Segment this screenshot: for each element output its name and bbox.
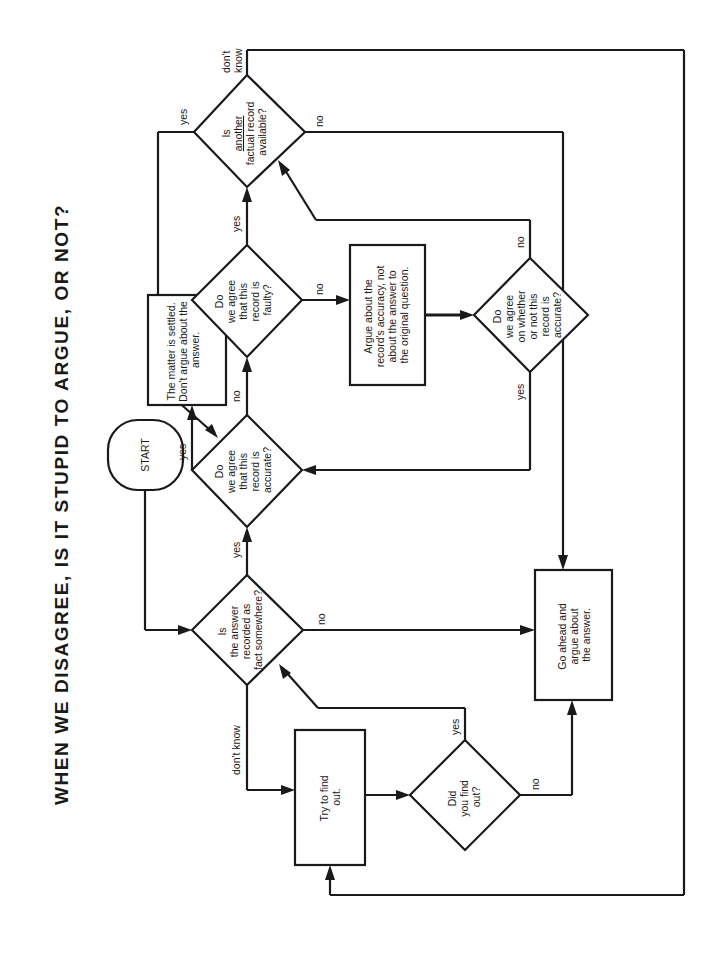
edge-recorded-yes xyxy=(242,527,252,575)
label-another-no: no xyxy=(313,115,325,127)
edge-whether-no xyxy=(278,160,530,258)
label-found-no: no xyxy=(529,778,541,790)
label-accurate-yes: yes xyxy=(176,444,188,460)
edge-faulty-no xyxy=(302,295,350,305)
edge-whether-yes xyxy=(302,372,530,475)
start-label: START xyxy=(139,438,151,472)
edge-start-to-recorded xyxy=(145,490,192,635)
flowchart: WHEN WE DISAGREE, IS IT STUPID TO ARGUE,… xyxy=(0,0,720,964)
label-recorded-yes: yes xyxy=(230,542,242,558)
edge-recorded-dontknow xyxy=(247,685,295,795)
label-recorded-dontknow: don't know xyxy=(230,725,242,775)
label-whether-yes: yes xyxy=(514,384,526,400)
label-another-yes: yes xyxy=(177,109,189,125)
label-faulty-no: no xyxy=(313,283,325,295)
label-recorded-no: no xyxy=(315,613,327,625)
edge-argue-to-whether xyxy=(425,310,474,320)
label-accurate-no: no xyxy=(230,390,242,402)
edge-found-yes xyxy=(279,664,465,740)
label-another-dontknow: don't know xyxy=(220,48,244,73)
label-faulty-yes: yes xyxy=(230,216,242,232)
argue-accuracy-text: Argue about the record's accuracy, not a… xyxy=(362,263,410,368)
page-title: WHEN WE DISAGREE, IS IT STUPID TO ARGUE,… xyxy=(51,205,72,805)
edge-faulty-yes xyxy=(242,187,252,245)
edge-recorded-no xyxy=(303,625,535,635)
label-whether-no: no xyxy=(514,236,526,248)
label-found-yes: yes xyxy=(449,719,461,735)
edge-try-to-found xyxy=(365,790,410,800)
edge-accurate-no xyxy=(242,357,252,415)
go-ahead-text: Go ahead and argue about the answer. xyxy=(556,600,592,669)
